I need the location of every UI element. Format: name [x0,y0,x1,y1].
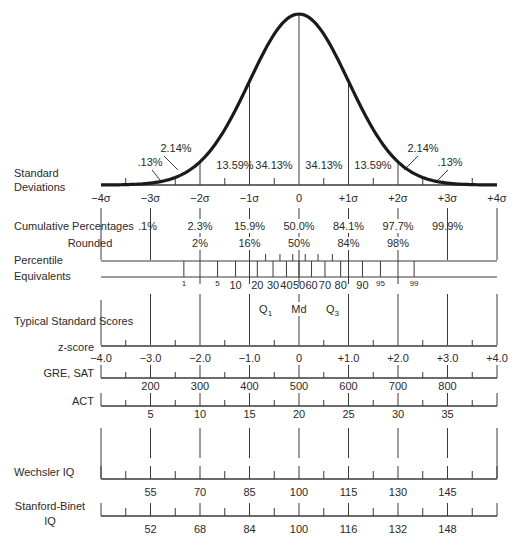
normal-distribution-chart: .13%2.14%13.59%34.13%34.13%13.59%2.14%.1… [0,0,517,551]
area-percentage-label: 2.14% [160,142,191,154]
wechsler-iq-value: 100 [290,486,308,498]
act-value: 35 [441,408,453,420]
wechsler-iq-value: 130 [389,486,407,498]
sigma-tick-label: −3σ [141,192,161,204]
percentile-tick-label: 40 [280,279,292,291]
percentile-tick-label: 20 [251,279,263,291]
area-percentage-label: .13% [137,156,162,168]
stanford-binet-iq-value: 84 [243,523,255,535]
rule-lines [101,14,497,516]
rounded-percentage-value: 16% [238,237,260,249]
percentile-tick-label: 99 [410,279,419,288]
area-percentage-label: 13.59% [354,159,392,171]
rounded-percentage-value: 98% [387,237,409,249]
stanford-binet-iq-value: 100 [290,523,308,535]
percentile-tick-label: 50 [293,279,305,291]
stanford-binet-iq-value: 68 [194,523,206,535]
z-score-value: +3.0 [437,352,459,364]
cumulative-percentage-value: 99.9% [432,220,463,232]
quartile-label: Md [291,303,306,315]
quartile-label: Q3 [326,303,340,318]
row-label-z-score: z-score [58,341,94,353]
area-percentage-label: .13% [437,156,462,168]
sigma-tick-label: +1σ [339,192,359,204]
sigma-tick-label: 0 [296,192,302,204]
gre-sat-value: 400 [240,380,258,392]
wechsler-iq-value: 85 [243,486,255,498]
row-label-typical-standard-scores: Typical Standard Scores [14,315,134,327]
pointer-line [438,170,448,180]
sigma-tick-label: −2σ [190,192,210,204]
row-label-percentile: Percentile [14,254,63,266]
gre-sat-value: 300 [191,380,209,392]
act-value: 20 [293,408,305,420]
percentile-tick-label: 60 [305,279,317,291]
percentile-tick-label: 70 [319,279,331,291]
z-score-value: −1.0 [239,352,261,364]
area-percentage-label: 2.14% [407,142,438,154]
stanford-binet-iq-value: 116 [340,523,358,535]
area-percentage-label: 13.59% [216,159,254,171]
stanford-binet-iq-value: 132 [389,523,407,535]
percentile-tick-label: 5 [215,279,220,288]
row-label-stanford-binet-iq: Stanford-Binet [15,500,85,512]
sigma-tick-label: −4σ [91,192,111,204]
cumulative-percentage-value: .1% [138,220,157,232]
percentile-tick-label: 80 [335,279,347,291]
cumulative-percentage-value: 15.9% [234,220,265,232]
stanford-binet-iq-value: 52 [144,523,156,535]
gre-sat-value: 500 [290,380,308,392]
row-label-act: ACT [72,395,94,407]
wechsler-iq-value: 70 [194,486,206,498]
sigma-tick-label: +2σ [388,192,408,204]
act-value: 5 [147,408,153,420]
row-label-rounded: Rounded [68,237,113,249]
cumulative-percentage-value: 97.7% [382,220,413,232]
row-label-standard-deviations: Standard [14,167,59,179]
cumulative-percentage-value: 50.0% [283,220,314,232]
quartile-label: Q1 [259,303,273,318]
sigma-tick-label: +3σ [438,192,458,204]
percentile-tick-label: 90 [356,279,368,291]
row-label-standard-deviations: Deviations [14,181,66,193]
percentile-tick-label: 10 [229,279,241,291]
pointer-line [164,156,178,170]
gre-sat-value: 600 [339,380,357,392]
z-score-value: +1.0 [338,352,360,364]
z-score-value: +2.0 [387,352,409,364]
rounded-percentage-value: 50% [288,237,310,249]
area-percentage-label: 34.13% [305,159,343,171]
cumulative-percentage-value: 2.3% [187,220,212,232]
wechsler-iq-value: 115 [340,486,358,498]
percentile-tick-label: 95 [376,279,385,288]
z-score-value: −3.0 [140,352,162,364]
z-score-value: 0 [296,352,302,364]
act-value: 15 [243,408,255,420]
wechsler-iq-value: 55 [144,486,156,498]
cumulative-percentage-value: 84.1% [333,220,364,232]
gre-sat-value: 700 [389,380,407,392]
row-label-gre-sat: GRE, SAT [43,367,94,379]
sigma-tick-label: +4σ [487,192,507,204]
percentile-tick-label: 1 [182,279,187,288]
z-score-value: +4.0 [486,352,508,364]
act-value: 25 [342,408,354,420]
labels: .13%2.14%13.59%34.13%34.13%13.59%2.14%.1… [14,142,508,535]
pointer-line [152,170,160,180]
sigma-tick-label: −1σ [240,192,260,204]
act-value: 30 [392,408,404,420]
percentile-tick-label: 30 [267,279,279,291]
z-score-value: −4.0 [90,352,112,364]
area-percentage-label: 34.13% [255,159,293,171]
rounded-percentage-value: 84% [337,237,359,249]
stanford-binet-iq-value: 148 [438,523,456,535]
gre-sat-value: 200 [141,380,159,392]
wechsler-iq-value: 145 [438,486,456,498]
gre-sat-value: 800 [438,380,456,392]
row-label-stanford-binet-iq: IQ [44,515,56,527]
act-value: 10 [194,408,206,420]
rounded-percentage-value: 2% [192,237,208,249]
row-label-percentile: Equivalents [14,270,71,282]
z-score-value: −2.0 [189,352,211,364]
row-label-wechsler-iq: Wechsler IQ [14,466,75,478]
